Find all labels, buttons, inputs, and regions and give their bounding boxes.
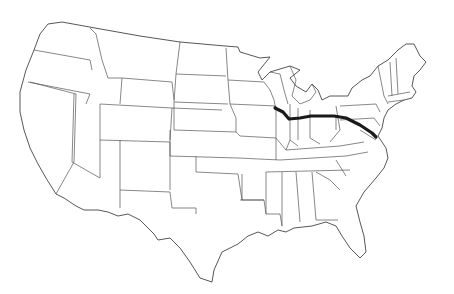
us-map — [0, 0, 454, 294]
us-outline — [20, 22, 426, 282]
